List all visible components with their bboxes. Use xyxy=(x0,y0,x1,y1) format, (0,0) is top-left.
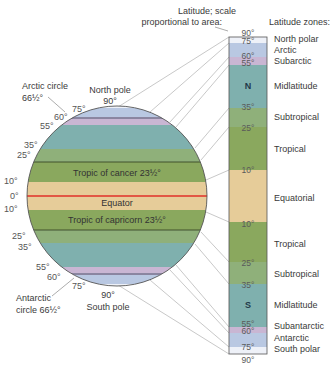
south-pole-label: South pole xyxy=(86,302,129,312)
zone-subtropical-north: Subtropical xyxy=(274,112,319,122)
zone-labels: North polar Arctic Subarctic Midlatitude… xyxy=(274,34,325,354)
svg-text:10°: 10° xyxy=(4,204,18,214)
bar-title-pointer xyxy=(215,27,228,31)
south-pole-degree: 90° xyxy=(101,290,115,300)
zone-subtropical-south: Subtropical xyxy=(274,269,319,279)
svg-text:90°: 90° xyxy=(242,355,255,365)
svg-text:35°: 35° xyxy=(18,242,32,252)
svg-text:35°: 35° xyxy=(24,140,38,150)
arctic-circle-label: Arctic circle xyxy=(22,81,68,91)
svg-text:55°: 55° xyxy=(36,262,50,272)
svg-text:10°: 10° xyxy=(242,165,255,175)
zone-tropical-south: Tropical xyxy=(274,239,306,249)
tropic-of-cancer-label: Tropic of cancer 23½° xyxy=(73,168,161,178)
svg-text:25°: 25° xyxy=(12,231,26,241)
bar-title-line2: proportional to area: xyxy=(141,17,222,27)
svg-text:60°: 60° xyxy=(47,272,61,282)
svg-text:25°: 25° xyxy=(242,123,255,133)
svg-text:10°: 10° xyxy=(242,219,255,229)
svg-text:55°: 55° xyxy=(242,58,255,68)
zone-north-polar: North polar xyxy=(274,34,319,44)
north-pole-degree: 90° xyxy=(103,96,117,106)
svg-text:35°: 35° xyxy=(242,280,255,290)
zone-tropical-north: Tropical xyxy=(274,144,306,154)
zones-title: Latitude zones: xyxy=(269,17,330,27)
tropic-of-capricorn-label: Tropic of capricorn 23½° xyxy=(68,215,166,225)
svg-text:60°: 60° xyxy=(242,326,255,336)
svg-text:25°: 25° xyxy=(17,150,31,160)
zone-midlatitude-south: Midlatitude xyxy=(274,300,318,310)
svg-text:60°: 60° xyxy=(54,112,68,122)
svg-text:55°: 55° xyxy=(40,121,54,131)
zone-equatorial: Equatorial xyxy=(274,193,315,203)
hemisphere-north-label: N xyxy=(245,81,252,91)
hemisphere-south-label: S xyxy=(245,300,251,310)
bar-title-line1: Latitude; scale xyxy=(178,6,236,16)
zone-subarctic: Subarctic xyxy=(274,56,312,66)
svg-text:0°: 0° xyxy=(10,191,19,201)
svg-text:75°: 75° xyxy=(72,104,86,114)
equator-label: Equator xyxy=(101,198,133,208)
north-pole-label: North pole xyxy=(89,85,131,95)
zone-midlatitude-north: Midlatitude xyxy=(274,81,318,91)
svg-text:25°: 25° xyxy=(242,258,255,268)
svg-text:35°: 35° xyxy=(242,102,255,112)
zone-arctic: Arctic xyxy=(274,45,297,55)
svg-text:75°: 75° xyxy=(72,281,86,291)
latitude-zones-diagram: Tropic of cancer 23½° Equator Tropic of … xyxy=(0,0,334,371)
svg-text:10°: 10° xyxy=(4,176,18,186)
arctic-circle-degree: 66½° xyxy=(22,93,44,103)
antarctic-circle-label: Antarctic xyxy=(16,293,52,303)
zone-south-polar: South polar xyxy=(274,344,320,354)
svg-text:75°: 75° xyxy=(242,342,255,352)
arctic-circle-pointer xyxy=(48,97,65,112)
zone-subantarctic: Subantarctic xyxy=(274,321,325,331)
svg-text:75°: 75° xyxy=(242,36,255,46)
antarctic-circle-degree: circle 66½° xyxy=(16,305,61,315)
zone-antarctic: Antarctic xyxy=(274,333,310,343)
